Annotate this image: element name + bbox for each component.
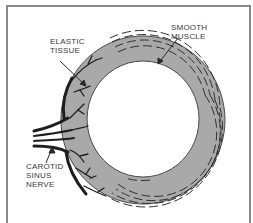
label-smooth-muscle: SMOOTH MUSCLE	[171, 23, 207, 41]
label-elastic-tissue: ELASTIC TISSUE	[50, 37, 85, 55]
carotid-sinus-diagram	[0, 0, 253, 223]
vessel-wall	[61, 36, 225, 204]
label-carotid-sinus-nerve: CAROTID SINUS NERVE	[26, 162, 63, 189]
